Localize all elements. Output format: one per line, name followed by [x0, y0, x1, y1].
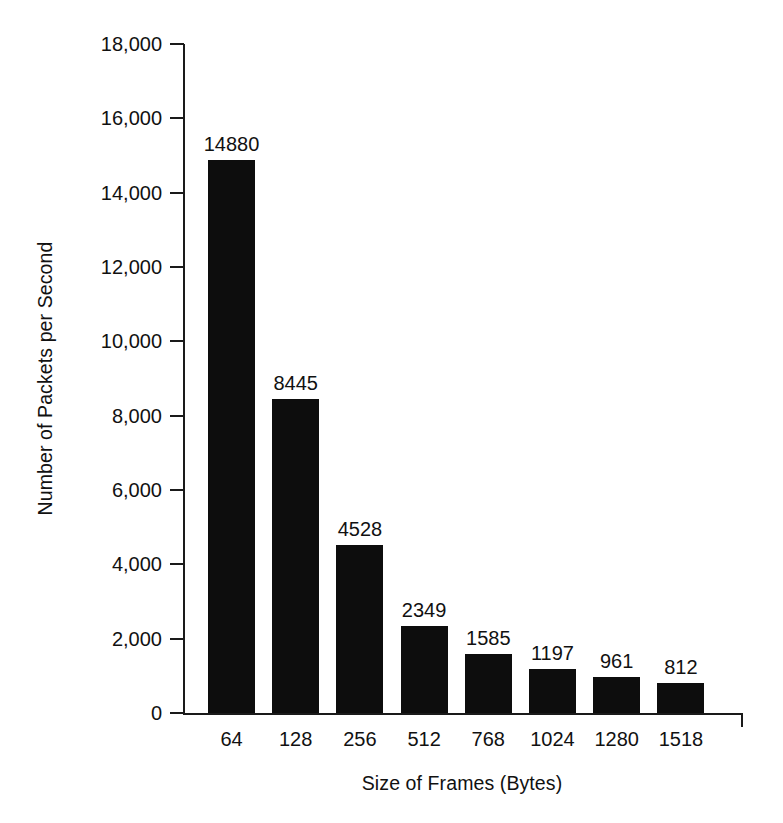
bar-value-label: 2349: [379, 599, 469, 621]
x-axis-title: Size of Frames (Bytes): [183, 772, 741, 795]
bar-value-label: 812: [636, 656, 726, 678]
bar: [401, 626, 448, 713]
x-axis-tick-label: 1518: [636, 727, 726, 751]
bar-chart-figure: Number of Packets per Second 18,00016,00…: [0, 0, 783, 823]
bar: [529, 669, 576, 713]
bar-value-label: 14880: [187, 133, 277, 155]
bar: [336, 545, 383, 713]
bar: [272, 399, 319, 713]
plot-area: 1488084454528234915851197961812: [0, 0, 783, 823]
bar: [465, 654, 512, 713]
bar: [593, 677, 640, 713]
bar: [208, 160, 255, 713]
bar-value-label: 4528: [315, 518, 405, 540]
bar: [657, 683, 704, 713]
bar-value-label: 8445: [251, 372, 341, 394]
